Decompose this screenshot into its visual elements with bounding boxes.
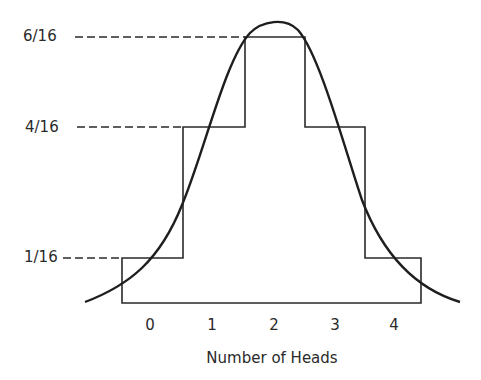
- histogram-plot: [0, 0, 481, 380]
- x-tick-3: 3: [330, 318, 340, 333]
- x-tick-2: 2: [269, 318, 279, 333]
- x-tick-4: 4: [389, 318, 399, 333]
- x-axis-label: Number of Heads: [206, 349, 337, 367]
- y-label-1-16: 1/16: [24, 250, 58, 265]
- normal-curve: [85, 22, 460, 302]
- y-label-6-16: 6/16: [23, 29, 57, 44]
- y-label-4-16: 4/16: [25, 120, 59, 135]
- histogram-bars: [122, 37, 421, 303]
- x-tick-0: 0: [145, 318, 155, 333]
- x-tick-1: 1: [207, 318, 217, 333]
